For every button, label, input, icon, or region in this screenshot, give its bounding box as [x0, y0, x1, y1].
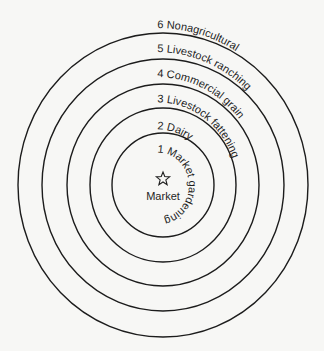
market-label: Market [146, 190, 180, 202]
concentric-land-use-diagram: 1 Market gardening2 Dairy3 Livestock fat… [0, 0, 324, 351]
star-icon [156, 172, 169, 185]
zone-ring-3 [67, 84, 259, 286]
zone-label-2: 2 Dairy [157, 119, 196, 142]
zone-label-1: 1 Market gardening [157, 142, 199, 227]
market-center: Market [146, 172, 180, 202]
